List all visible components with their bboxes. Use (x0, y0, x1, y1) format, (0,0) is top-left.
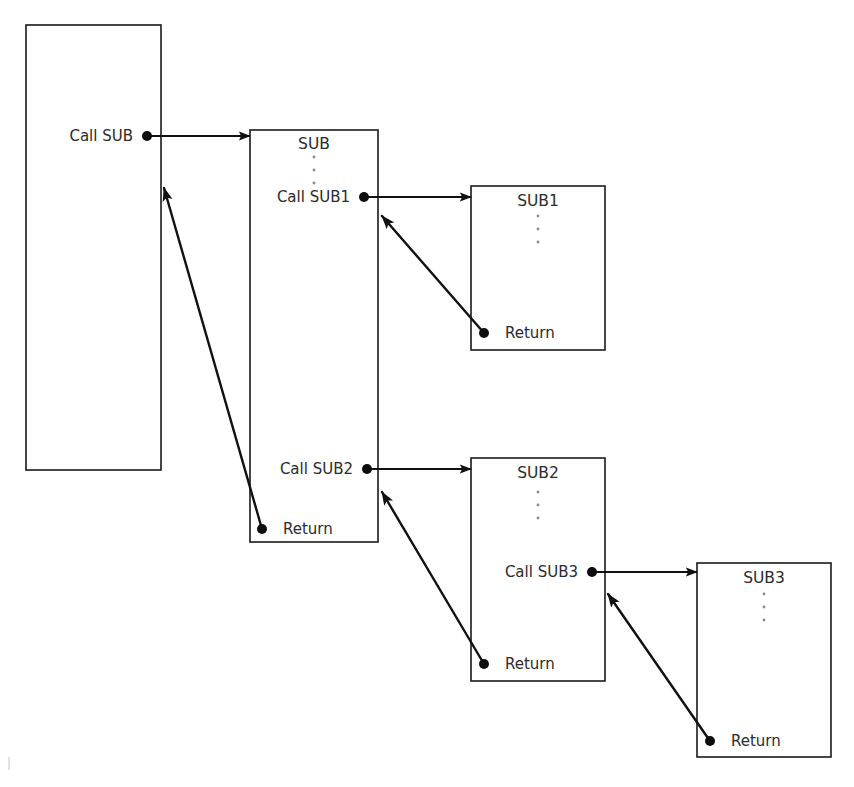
sub2-box-vertical-ellipsis-dot (537, 517, 540, 520)
sub3-box-vertical-ellipsis-dot (763, 619, 766, 622)
main-program-box-statement-node-dot[interactable] (142, 131, 152, 141)
sub3-box-vertical-ellipsis-dot (763, 606, 766, 609)
sub2-box-statement-node-dot[interactable] (479, 659, 489, 669)
sub3-box-title: SUB3 (743, 569, 785, 587)
sub1-box-vertical-ellipsis-dot (537, 228, 540, 231)
sub2-box-vertical-ellipsis-dot (537, 504, 540, 507)
sub1-box-vertical-ellipsis-dot (537, 215, 540, 218)
sub-box-vertical-ellipsis-dot (313, 182, 316, 185)
sub3-box-group (697, 563, 831, 757)
main-program-box[interactable] (26, 25, 161, 470)
subroutine-flow-diagram: Call SUBSUBCall SUB1Call SUB2ReturnSUB1R… (0, 0, 854, 787)
sub-box-vertical-ellipsis-dot (313, 169, 316, 172)
sub1-box-statement-node-dot[interactable] (479, 328, 489, 338)
main-program-box-statement: Call SUB (69, 127, 133, 145)
sub3-box-vertical-ellipsis-dot (763, 593, 766, 596)
sub1-box-statement: Return (505, 324, 555, 342)
sub-box-statement: Call SUB1 (277, 188, 350, 206)
sub-box-title: SUB (298, 135, 330, 153)
sub2-box-title: SUB2 (517, 464, 559, 482)
sub-box-statement-node-dot[interactable] (359, 192, 369, 202)
sub-box-vertical-ellipsis-dot (313, 156, 316, 159)
sub2-box-statement: Return (505, 655, 555, 673)
sub-box-statement-node-dot[interactable] (257, 524, 267, 534)
sub1-box-title: SUB1 (517, 192, 559, 210)
sub2-box-statement: Call SUB3 (505, 563, 578, 581)
sub3-box-statement: Return (731, 732, 781, 750)
diagram-canvas: Call SUBSUBCall SUB1Call SUB2ReturnSUB1R… (0, 0, 854, 787)
main-program-box-group (26, 25, 161, 470)
sub-box-statement: Return (283, 520, 333, 538)
sub-box-statement-node-dot[interactable] (362, 464, 372, 474)
sub2-box-vertical-ellipsis-dot (537, 491, 540, 494)
sub1-box-vertical-ellipsis-dot (537, 241, 540, 244)
scan-artifact-mark (8, 757, 10, 770)
sub-box-statement: Call SUB2 (280, 460, 353, 478)
sub3-box[interactable] (697, 563, 831, 757)
sub3-box-statement-node-dot[interactable] (705, 736, 715, 746)
sub2-box-statement-node-dot[interactable] (587, 567, 597, 577)
